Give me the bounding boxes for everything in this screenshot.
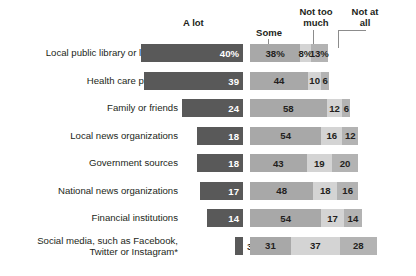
segment-not-too-much: 18 — [313, 182, 337, 200]
segment-not-at-all: 16 — [337, 182, 358, 200]
segment-value: 58 — [283, 103, 294, 114]
category-label: Family or friends — [0, 102, 178, 114]
column-header-not-too-much: Not too much — [292, 7, 340, 28]
segment-some: 38% — [250, 44, 300, 62]
segment-not-too-much: 37 — [291, 237, 340, 255]
segment-value: 19 — [314, 158, 325, 169]
table-row: Government sources18431920 — [0, 154, 416, 172]
segment-value: 17 — [327, 213, 338, 224]
segment-value: 28 — [353, 240, 364, 251]
segment-value: 6 — [323, 75, 328, 86]
column-header-not-at-all: Not at all — [342, 7, 388, 28]
segment-not-at-all: 20 — [332, 154, 358, 172]
segment-not-at-all: 28 — [340, 237, 377, 255]
table-row: Family or friends2458126 — [0, 99, 416, 117]
bar-value-a-lot: 18 — [228, 158, 239, 169]
category-label: Financial institutions — [0, 212, 178, 224]
bar-value-a-lot: 39 — [228, 75, 239, 86]
segment-not-at-all: 14 — [344, 209, 362, 227]
stacked-bar-chart: A lot Some Not too much Not at all Local… — [0, 0, 416, 276]
segment-not-at-all: 6 — [321, 72, 329, 90]
segment-some: 54 — [250, 209, 321, 227]
table-row: Health care providers3944106 — [0, 72, 416, 90]
segment-not-too-much: 12 — [327, 99, 343, 117]
segment-some: 58 — [250, 99, 327, 117]
segment-value: 16 — [326, 130, 337, 141]
table-row: National news organizations17481816 — [0, 182, 416, 200]
segment-not-too-much: 19 — [307, 154, 332, 172]
segment-value: 12 — [329, 103, 340, 114]
bar-value-a-lot: 24 — [228, 103, 239, 114]
segment-value: 38% — [265, 48, 284, 59]
segment-not-at-all: 12 — [342, 127, 358, 145]
column-header-a-lot: A lot — [183, 18, 243, 29]
segment-value: 54 — [280, 213, 291, 224]
segment-some: 44 — [250, 72, 308, 90]
segment-not-at-all: 13% — [311, 44, 328, 62]
segment-not-too-much: 10 — [308, 72, 321, 90]
bar-value-a-lot: 40% — [220, 48, 239, 59]
segment-value: 10 — [309, 75, 320, 86]
table-row: Local news organizations18541612 — [0, 127, 416, 145]
category-label: Social media, such as Facebook, Twitter … — [0, 234, 178, 257]
category-label: Local news organizations — [0, 130, 178, 142]
segment-not-too-much: 17 — [321, 209, 343, 227]
segment-value: 16 — [342, 185, 353, 196]
category-label: National news organizations — [0, 185, 178, 197]
segment-not-at-all: 6 — [342, 99, 350, 117]
segment-value: 12 — [345, 130, 356, 141]
segment-some: 48 — [250, 182, 313, 200]
segment-value: 13% — [310, 48, 329, 59]
segment-value: 44 — [274, 75, 285, 86]
segment-value: 20 — [340, 158, 351, 169]
segment-value: 6 — [344, 103, 349, 114]
segment-value: 18 — [320, 185, 331, 196]
segment-value: 31 — [265, 240, 276, 251]
segment-some: 31 — [250, 237, 291, 255]
segment-some: 54 — [250, 127, 321, 145]
bar-value-a-lot: 14 — [228, 213, 239, 224]
category-label: Government sources — [0, 157, 178, 169]
bar-value-a-lot: 17 — [228, 185, 239, 196]
table-row: Financial institutions14541714 — [0, 209, 416, 227]
table-row: Local public library or librarians40%38%… — [0, 44, 416, 62]
segment-value: 54 — [280, 130, 291, 141]
segment-value: 43 — [273, 158, 284, 169]
table-row: Social media, such as Facebook, Twitter … — [0, 237, 416, 255]
bar-value-a-lot: 18 — [228, 130, 239, 141]
bar-a-lot — [235, 237, 243, 255]
segment-value: 48 — [276, 185, 287, 196]
segment-value: 14 — [348, 213, 359, 224]
segment-not-too-much: 16 — [321, 127, 342, 145]
leader-line-not-at-all-h — [338, 30, 366, 31]
segment-value: 37 — [310, 240, 321, 251]
column-header-some: Some — [248, 28, 290, 39]
segment-some: 43 — [250, 154, 307, 172]
